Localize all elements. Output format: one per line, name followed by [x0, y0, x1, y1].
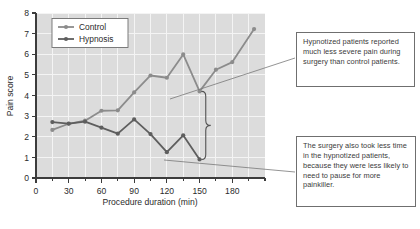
data-point[interactable] [132, 117, 136, 121]
legend-marker-hypnosis [64, 37, 68, 41]
legend-label-hypnosis: Hypnosis [79, 34, 113, 44]
figure-container: 012345678 0306090120150180 Pain score Pr… [0, 0, 420, 229]
y-tick-label: 1 [24, 153, 29, 163]
y-tick-label: 5 [24, 70, 29, 80]
data-point[interactable] [67, 121, 71, 125]
x-tick-label: 120 [160, 186, 175, 196]
y-tick-label: 3 [24, 111, 29, 121]
data-point[interactable] [50, 120, 54, 124]
x-axis-ticks [36, 178, 265, 183]
y-tick-label: 0 [24, 173, 29, 183]
x-tick-label: 90 [129, 186, 139, 196]
x-tick-label: 150 [192, 186, 207, 196]
y-axis-tick-labels: 012345678 [24, 8, 29, 183]
data-point[interactable] [197, 157, 201, 161]
data-point[interactable] [181, 52, 185, 56]
data-point[interactable] [148, 132, 152, 136]
data-point[interactable] [165, 76, 169, 80]
chart-legend: Control Hypnosis [52, 19, 128, 48]
y-tick-label: 4 [24, 91, 29, 101]
data-point[interactable] [116, 108, 120, 112]
y-tick-label: 2 [24, 132, 29, 142]
y-tick-label: 8 [24, 8, 29, 18]
y-tick-label: 7 [24, 29, 29, 39]
data-point[interactable] [214, 68, 218, 72]
data-point[interactable] [181, 133, 185, 137]
annotation-box-surgery-duration: The surgery also took less time in the h… [296, 136, 416, 207]
data-point[interactable] [50, 128, 54, 132]
x-tick-label: 0 [34, 186, 39, 196]
data-point[interactable] [99, 109, 103, 113]
data-point[interactable] [99, 126, 103, 130]
data-point[interactable] [83, 120, 87, 124]
data-point[interactable] [252, 27, 256, 31]
data-point[interactable] [148, 73, 152, 77]
x-tick-label: 60 [97, 186, 107, 196]
data-point[interactable] [230, 60, 234, 64]
legend-label-control: Control [79, 22, 106, 32]
data-point[interactable] [132, 90, 136, 94]
data-point[interactable] [165, 150, 169, 154]
y-axis-title: Pain score [5, 75, 15, 116]
legend-marker-control [64, 25, 68, 29]
x-tick-label: 180 [225, 186, 240, 196]
x-tick-label: 30 [64, 186, 74, 196]
y-tick-label: 6 [24, 49, 29, 59]
data-point[interactable] [116, 132, 120, 136]
x-axis-title: Procedure duration (min) [102, 197, 197, 207]
annotation-box-pain-severity: Hypnotized patients reported much less s… [296, 32, 415, 87]
x-axis-tick-labels: 0306090120150180 [34, 186, 240, 196]
